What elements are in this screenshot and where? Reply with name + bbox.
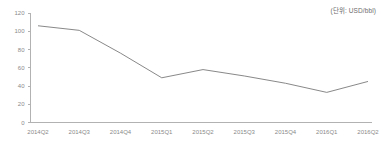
x-tick-label: 2016Q2 — [357, 129, 379, 135]
y-tick-label: 40 — [18, 83, 25, 89]
y-tick-group: 020406080100120 — [14, 10, 30, 126]
x-tick-label: 2014Q2 — [27, 129, 49, 135]
y-tick-label: 60 — [18, 65, 25, 71]
oil-price-line-chart: (단위: USD/bbl) 020406080100120 2014Q22014… — [0, 0, 380, 148]
x-tick-group: 2014Q22014Q32014Q42015Q12015Q22015Q32015… — [27, 129, 379, 135]
x-tick-label: 2015Q2 — [192, 129, 214, 135]
x-tick-label: 2016Q1 — [316, 129, 338, 135]
x-axis: 2014Q22014Q32014Q42015Q12015Q22015Q32015… — [27, 123, 379, 135]
y-tick-label: 80 — [18, 47, 25, 53]
x-tick-label: 2015Q3 — [234, 129, 256, 135]
y-tick-label: 0 — [21, 120, 25, 126]
y-tick-label: 120 — [14, 10, 25, 16]
x-tick-label: 2014Q4 — [110, 129, 132, 135]
data-series-line — [38, 26, 368, 93]
y-tick-label: 20 — [18, 101, 25, 107]
x-tick-label: 2015Q1 — [151, 129, 173, 135]
x-tick-label: 2015Q4 — [275, 129, 297, 135]
chart-plot-area: 020406080100120 2014Q22014Q32014Q42015Q1… — [0, 0, 380, 148]
y-axis: 020406080100120 — [14, 10, 30, 126]
x-tick-label: 2014Q3 — [69, 129, 91, 135]
y-tick-label: 100 — [14, 28, 25, 34]
